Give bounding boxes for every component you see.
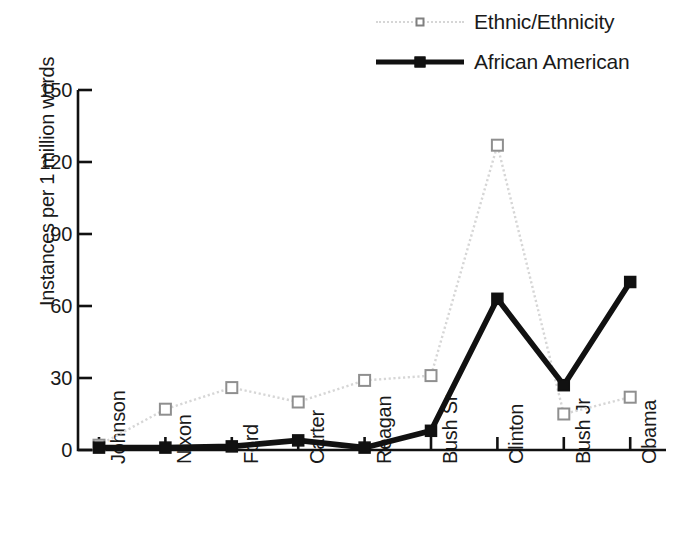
data-point-marker — [226, 441, 237, 452]
data-point-marker — [359, 375, 370, 386]
data-point-marker — [625, 277, 636, 288]
data-point-marker — [558, 380, 569, 391]
data-point-marker — [426, 425, 437, 436]
data-point-marker — [558, 409, 569, 420]
data-point-marker — [492, 140, 503, 151]
data-point-marker — [226, 382, 237, 393]
data-point-marker — [94, 442, 105, 453]
data-point-marker — [293, 397, 304, 408]
data-point-marker — [625, 392, 636, 403]
data-point-marker — [160, 404, 171, 415]
data-point-marker — [160, 442, 171, 453]
series-line-african-american — [99, 282, 630, 448]
data-point-marker — [293, 435, 304, 446]
series-line-ethnic-ethnicity — [99, 145, 630, 445]
axis-spine — [78, 90, 666, 450]
line-chart: Ethnic/Ethnicity African American Instan… — [0, 0, 680, 539]
plot-area — [0, 0, 680, 539]
data-point-marker — [492, 293, 503, 304]
data-point-marker — [359, 442, 370, 453]
data-point-marker — [426, 370, 437, 381]
